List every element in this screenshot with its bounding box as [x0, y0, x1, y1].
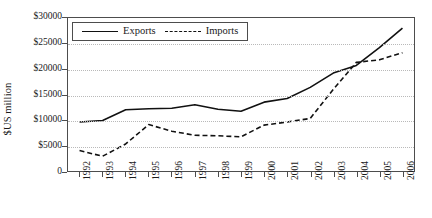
x-axis-tick-label: 2006	[407, 161, 417, 180]
y-axis-tick-label: $20000	[14, 64, 62, 74]
x-axis-tick-mark	[148, 172, 149, 177]
gridline	[68, 44, 414, 45]
x-axis-tick-label: 1997	[199, 161, 209, 180]
x-axis-tick-mark	[218, 172, 219, 177]
legend-swatch-dashed-line-icon	[165, 31, 201, 32]
x-axis-tick-mark	[171, 172, 172, 177]
x-axis-tick-mark	[195, 172, 196, 177]
x-axis-tick-mark	[357, 172, 358, 177]
y-axis-tick-mark	[62, 43, 67, 44]
x-axis-tick-label: 1998	[222, 161, 232, 180]
gridline	[68, 121, 414, 122]
x-axis-tick-mark	[79, 172, 80, 177]
y-axis-tick-mark	[62, 146, 67, 147]
x-axis-tick-label: 1996	[175, 161, 185, 180]
x-axis-tick-label: 2005	[384, 161, 394, 180]
y-axis-tick-label: $25000	[14, 38, 62, 48]
x-axis-tick-label: 1999	[245, 161, 255, 180]
x-axis-tick-label: 2001	[291, 161, 301, 180]
chart-legend: ExportsImports	[72, 22, 248, 41]
x-axis-tick-mark	[380, 172, 381, 177]
y-axis-tick-label: 0	[14, 167, 62, 177]
series-line-exports	[80, 28, 403, 122]
y-axis-tick-label: $5000	[14, 141, 62, 151]
x-axis-tick-label: 1995	[152, 161, 162, 180]
x-axis-tick-mark	[125, 172, 126, 177]
x-axis-tick-label: 2000	[268, 161, 278, 180]
x-axis-tick-label: 1992	[83, 161, 93, 180]
y-axis-tick-mark	[62, 120, 67, 121]
gridline	[68, 96, 414, 97]
x-axis-tick-mark	[241, 172, 242, 177]
y-axis-tick-label: $30000	[14, 12, 62, 22]
x-axis-tick-mark	[334, 172, 335, 177]
series-line-imports	[80, 53, 403, 157]
x-axis-tick-mark	[287, 172, 288, 177]
x-axis-tick-mark	[403, 172, 404, 177]
legend-item-imports[interactable]: Imports	[165, 26, 239, 37]
x-axis-tick-label: 1994	[129, 161, 139, 180]
x-axis-tick-mark	[264, 172, 265, 177]
y-axis-tick-label: $10000	[14, 116, 62, 126]
y-axis-title: $US million	[0, 0, 14, 218]
gridline	[68, 147, 414, 148]
y-axis-tick-mark	[62, 69, 67, 70]
legend-item-label: Exports	[123, 26, 156, 37]
y-axis-tick-mark	[62, 17, 67, 18]
y-axis-tick-label: $15000	[14, 90, 62, 100]
chart-figure: $US million 0$5000$10000$15000$20000$250…	[0, 0, 432, 218]
y-axis-tick-mark	[62, 95, 67, 96]
x-axis-tick-mark	[102, 172, 103, 177]
y-axis-tick-mark	[62, 172, 67, 173]
legend-item-exports[interactable]: Exports	[82, 26, 156, 37]
legend-swatch-solid-line-icon	[82, 31, 118, 32]
gridline	[68, 70, 414, 71]
x-axis-tick-label: 1993	[106, 161, 116, 180]
y-axis-tick-labels: 0$5000$10000$15000$20000$25000$30000	[14, 0, 62, 218]
x-axis-tick-mark	[311, 172, 312, 177]
x-axis-tick-label: 2004	[361, 161, 371, 180]
legend-item-label: Imports	[206, 26, 239, 37]
x-axis-tick-label: 2003	[338, 161, 348, 180]
x-axis-tick-label: 2002	[315, 161, 325, 180]
